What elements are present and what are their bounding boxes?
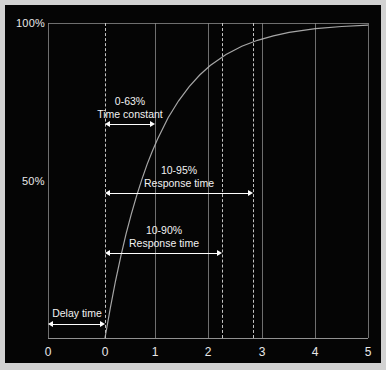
plot-surface: 100% 50% 0 0 1 2 3 4 5 0-63% Time consta… [0, 0, 386, 370]
y-tick-label-50: 50% [22, 175, 45, 187]
arrow-shaft [108, 193, 250, 194]
arrowhead-right-icon [217, 250, 222, 256]
x-tick-label-3: 3 [252, 345, 272, 359]
x-tick-label-0-zero: 0 [95, 345, 115, 359]
arrow-response-time-10-90 [105, 250, 222, 257]
x-tick-label-1: 1 [145, 345, 165, 359]
resp90-percent: 10-90% [104, 224, 224, 237]
x-tick-label-2: 2 [198, 345, 218, 359]
arrow-shaft [108, 124, 152, 125]
delay-time-name: Delay time [41, 307, 113, 320]
time-constant-percent: 0-63% [70, 95, 190, 108]
arrow-shaft [51, 324, 102, 325]
resp95-percent: 10-95% [119, 164, 239, 177]
x-tick-label-4: 4 [305, 345, 325, 359]
figure-frame: 100% 50% 0 0 1 2 3 4 5 0-63% Time consta… [0, 0, 386, 370]
arrowhead-right-icon [100, 321, 105, 327]
arrowhead-right-icon [248, 190, 253, 196]
arrow-shaft [108, 253, 219, 254]
y-tick-label-100: 100% [16, 17, 45, 29]
resp95-name: Response time [119, 177, 239, 190]
arrow-response-time-10-95 [105, 190, 253, 197]
annotation-delay-time: Delay time [41, 307, 113, 320]
resp90-name: Response time [104, 237, 224, 250]
x-tick-label-0-left: 0 [38, 345, 58, 359]
arrowhead-right-icon [150, 121, 155, 127]
annotation-time-constant: 0-63% Time constant [70, 95, 190, 120]
arrow-delay-time [48, 321, 105, 328]
annotation-response-time-10-90: 10-90% Response time [104, 224, 224, 249]
time-constant-name: Time constant [70, 108, 190, 121]
arrow-time-constant [105, 121, 155, 128]
annotation-response-time-10-95: 10-95% Response time [119, 164, 239, 189]
x-tick-label-5: 5 [358, 345, 378, 359]
